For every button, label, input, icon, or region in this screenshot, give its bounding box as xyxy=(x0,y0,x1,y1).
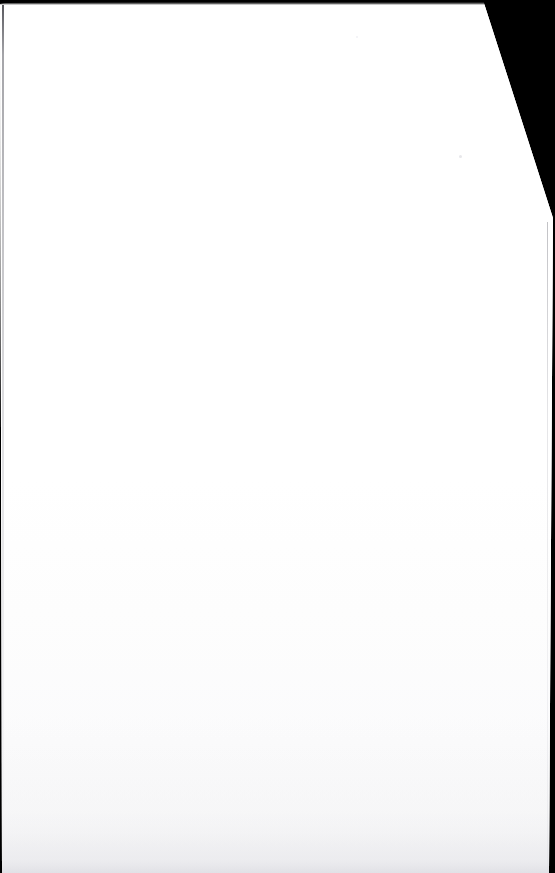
top-shadow-band xyxy=(0,0,555,5)
left-edge-line xyxy=(2,5,4,840)
page-sheet xyxy=(0,0,555,873)
page-text-content xyxy=(30,40,500,830)
dust-speck xyxy=(356,36,358,38)
dust-speck xyxy=(459,155,462,158)
scan-viewport xyxy=(0,0,555,873)
right-edge-line xyxy=(547,222,548,870)
